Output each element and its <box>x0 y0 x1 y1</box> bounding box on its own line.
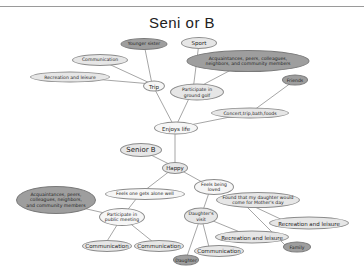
node-enjoys-life: Enjoys life <box>154 122 198 135</box>
node-communication-bottom: Communication <box>194 245 244 257</box>
node-found-daughter: Found that my daughter would come for Mo… <box>216 192 300 208</box>
node-recreation-right: Recreation and leisure <box>269 217 349 230</box>
node-happy: Happy <box>162 162 188 174</box>
node-acquaintances-bottom: Acquaintances, peers, colleagues, neighb… <box>16 186 96 214</box>
node-family: Family <box>283 242 311 253</box>
node-communication-left: Communication <box>82 240 132 252</box>
node-recreation-top: Recreation and leisure <box>30 72 110 83</box>
node-participate-meeting: Participate in public meeting <box>99 208 145 226</box>
node-friends: Friends <box>282 75 308 86</box>
node-younger-sister: Younger sister <box>121 38 168 50</box>
node-communication-top: Communication <box>72 54 128 66</box>
node-daughter: Daughter <box>173 255 199 266</box>
node-trip: Trip <box>143 81 165 92</box>
node-daughters-visit: Daughter's visit <box>184 208 218 225</box>
node-concert: Concert,trip,bath,foods <box>211 108 289 119</box>
node-communication-mid: Communication <box>134 240 184 252</box>
node-feels-loved: Feels being loved <box>194 179 234 195</box>
node-participate-ground-golf: Participate in ground golf <box>170 84 224 101</box>
node-sport: Sport <box>181 37 217 49</box>
node-acquaintances-top: Acquaintances, peers, colleagues, neighb… <box>187 50 310 72</box>
node-feels-alone-well: Feels one gets alone well <box>105 188 185 200</box>
node-senior-b: Senior B <box>120 143 162 157</box>
node-recreation-mid: Recreation and leisure <box>215 231 289 244</box>
